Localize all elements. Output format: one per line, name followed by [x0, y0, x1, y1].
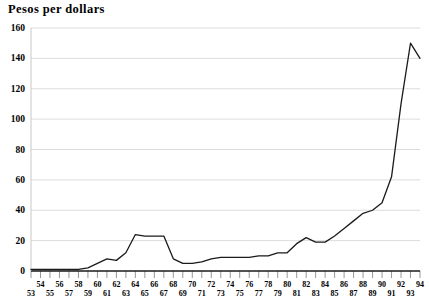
x-axis-tick-label: 81: [289, 289, 305, 298]
x-axis-tick-label: 82: [298, 280, 314, 289]
x-axis-tick-label: 59: [80, 289, 96, 298]
x-axis-tick-label: 75: [232, 289, 248, 298]
x-axis-tick-label: 54: [32, 280, 48, 289]
x-axis-tick-label: 92: [393, 280, 409, 289]
y-axis-tick-label: 20: [1, 236, 25, 246]
x-axis-tick-label: 85: [327, 289, 343, 298]
x-axis-tick-label: 57: [61, 289, 77, 298]
x-axis-tick-label: 62: [108, 280, 124, 289]
x-axis-tick-label: 70: [184, 280, 200, 289]
x-axis-tick-label: 87: [346, 289, 362, 298]
data-series-line: [31, 43, 420, 269]
x-axis-tick-label: 76: [241, 280, 257, 289]
y-axis-tick-label: 0: [1, 266, 25, 276]
y-axis-tick-label: 100: [1, 114, 25, 124]
x-axis-tick-label: 77: [251, 289, 267, 298]
gridlines: [31, 28, 420, 241]
x-axis-tick-label: 64: [127, 280, 143, 289]
y-axis-tick-label: 120: [1, 84, 25, 94]
x-axis-ticks: [31, 271, 420, 278]
x-axis-tick-label: 55: [42, 289, 58, 298]
x-axis-tick-label: 83: [308, 289, 324, 298]
x-axis-tick-label: 71: [194, 289, 210, 298]
y-axis-tick-label: 60: [1, 175, 25, 185]
x-axis-tick-label: 66: [146, 280, 162, 289]
x-axis-tick-label: 56: [51, 280, 67, 289]
x-axis-tick-label: 60: [89, 280, 105, 289]
x-axis-tick-label: 84: [317, 280, 333, 289]
x-axis-tick-label: 74: [222, 280, 238, 289]
x-axis-tick-label: 80: [279, 280, 295, 289]
x-axis-tick-label: 94: [412, 280, 428, 289]
x-axis-tick-label: 90: [374, 280, 390, 289]
x-axis-tick-label: 58: [70, 280, 86, 289]
x-axis-tick-label: 91: [384, 289, 400, 298]
x-axis-tick-label: 53: [23, 289, 39, 298]
x-axis-tick-label: 61: [99, 289, 115, 298]
x-axis-tick-label: 86: [336, 280, 352, 289]
x-axis-tick-label: 78: [260, 280, 276, 289]
y-axis-tick-label: 160: [1, 23, 25, 33]
y-axis-tick-label: 140: [1, 53, 25, 63]
y-axis-tick-label: 40: [1, 205, 25, 215]
x-axis-tick-label: 65: [137, 289, 153, 298]
x-axis-tick-label: 69: [175, 289, 191, 298]
x-axis-tick-label: 72: [203, 280, 219, 289]
x-axis-tick-label: 88: [355, 280, 371, 289]
x-axis-tick-label: 89: [365, 289, 381, 298]
x-axis-tick-label: 68: [165, 280, 181, 289]
x-axis-tick-label: 93: [403, 289, 419, 298]
x-axis-tick-label: 79: [270, 289, 286, 298]
x-axis-tick-label: 73: [213, 289, 229, 298]
x-axis-tick-label: 67: [156, 289, 172, 298]
y-axis-tick-label: 80: [1, 145, 25, 155]
x-axis-tick-label: 63: [118, 289, 134, 298]
